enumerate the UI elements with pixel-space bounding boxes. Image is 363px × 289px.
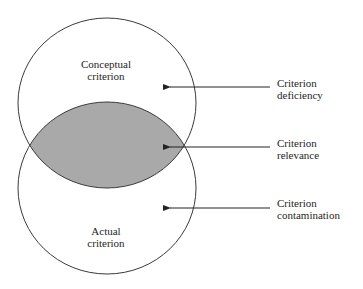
deficiency-label-line1: Criterion [277, 77, 317, 89]
actual-label-line2: criterion [87, 237, 125, 249]
contamination-label-line1: Criterion [277, 197, 317, 209]
actual-label-line1: Actual [91, 225, 120, 237]
relevance-label-line1: Criterion [277, 137, 317, 149]
deficiency-label-line2: deficiency [277, 89, 323, 101]
conceptual-label-line1: Conceptual [81, 58, 131, 70]
contamination-label-line2: contamination [277, 209, 340, 221]
conceptual-label-line2: criterion [87, 70, 125, 82]
criterion-venn-diagram: Conceptual criterion Actual criterion Cr… [0, 0, 363, 289]
relevance-label-line2: relevance [277, 149, 319, 161]
